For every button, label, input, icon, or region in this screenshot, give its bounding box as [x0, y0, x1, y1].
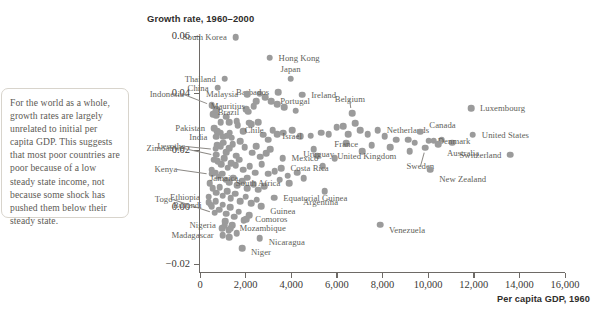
- data-point: [232, 191, 239, 198]
- point-label: Uruguay: [303, 149, 334, 159]
- data-point: [216, 184, 223, 191]
- data-point: [252, 169, 259, 176]
- point-label: Luxembourg: [480, 103, 525, 113]
- data-point: [227, 204, 234, 211]
- data-point: [220, 201, 227, 208]
- data-point: [242, 193, 249, 200]
- data-point: [266, 55, 273, 62]
- point-label: Israel: [282, 131, 302, 141]
- point-label: Togo: [155, 194, 173, 204]
- data-point: [233, 34, 240, 41]
- data-point: [405, 136, 412, 143]
- data-point: [301, 175, 308, 182]
- point-label: Zimbabwe: [146, 143, 184, 153]
- point-label: India: [189, 132, 207, 142]
- data-point: [340, 123, 347, 130]
- data-point: [271, 194, 278, 201]
- chart-title: Growth rate, 1960–2000: [147, 13, 254, 24]
- point-label: South Korea: [183, 32, 227, 42]
- data-point: [435, 141, 442, 148]
- x-tick: [200, 273, 201, 278]
- x-tick: [382, 273, 383, 278]
- data-point: [234, 122, 241, 129]
- data-point: [206, 193, 213, 200]
- data-point: [318, 130, 325, 137]
- point-label: Japan: [281, 64, 301, 74]
- point-label: Kenya: [154, 164, 177, 174]
- data-point: [286, 180, 293, 187]
- point-label: Venezuela: [389, 225, 425, 235]
- data-point: [236, 156, 243, 163]
- point-label: Costa Rica: [290, 163, 328, 173]
- point-label: United Kingdom: [337, 151, 396, 161]
- data-point: [243, 216, 250, 223]
- y-tick: [194, 264, 199, 265]
- point-label: Jamaica: [210, 173, 238, 183]
- point-label: New Zealand: [439, 174, 486, 184]
- data-point: [326, 131, 333, 138]
- data-point: [278, 165, 285, 172]
- data-point: [224, 188, 231, 195]
- data-point: [407, 148, 414, 155]
- data-point: [287, 75, 294, 82]
- x-tick: [473, 273, 474, 278]
- data-point: [417, 128, 424, 135]
- data-point: [213, 134, 220, 141]
- point-label: Niger: [251, 247, 271, 257]
- point-label: Canada: [429, 120, 455, 130]
- data-point: [241, 144, 248, 151]
- point-label: Nigeria: [190, 220, 216, 230]
- data-point: [275, 89, 282, 96]
- data-point: [239, 245, 246, 252]
- data-point: [267, 146, 274, 153]
- point-label: Switzerland: [459, 150, 501, 160]
- data-point: [285, 172, 292, 179]
- data-point: [292, 107, 299, 114]
- point-label: Mozambique: [240, 223, 286, 233]
- data-point: [258, 161, 265, 168]
- x-tick: [565, 273, 566, 278]
- point-label: Hong Kong: [279, 53, 320, 63]
- data-point: [268, 98, 275, 105]
- point-label: Ireland: [311, 90, 336, 100]
- scatter-plot-figure: For the world as a whole, growth rates a…: [0, 0, 616, 315]
- data-point: [251, 103, 258, 110]
- data-point: [349, 110, 356, 117]
- point-label: Denmark: [438, 136, 471, 146]
- point-label: Portugal: [280, 96, 310, 106]
- data-point: [387, 144, 394, 151]
- data-point: [246, 163, 253, 170]
- y-tick-label: −0.02: [148, 258, 190, 269]
- data-point: [211, 125, 218, 132]
- data-point: [357, 127, 364, 134]
- data-point: [253, 196, 260, 203]
- x-tick: [336, 273, 337, 278]
- data-point: [345, 131, 352, 138]
- data-point: [279, 155, 286, 162]
- data-point: [245, 108, 252, 115]
- point-label: Nicaragua: [269, 237, 305, 247]
- data-point: [393, 136, 400, 143]
- data-point: [244, 91, 251, 98]
- data-point: [364, 131, 371, 138]
- point-label: United States: [482, 130, 529, 140]
- point-label: Brazil: [218, 107, 240, 117]
- data-point: [229, 141, 236, 148]
- x-tick: [519, 273, 520, 278]
- data-point: [426, 138, 433, 145]
- data-point: [226, 234, 233, 241]
- point-label: France: [334, 139, 358, 149]
- data-point: [220, 232, 227, 239]
- data-point: [227, 225, 234, 232]
- data-point: [422, 144, 429, 151]
- data-point: [220, 139, 227, 146]
- point-label: South Africa: [236, 178, 281, 188]
- data-point: [211, 209, 218, 216]
- data-point: [352, 120, 359, 127]
- data-point: [235, 208, 242, 215]
- point-label: Malaysia: [206, 89, 238, 99]
- label-leader-line: [177, 169, 207, 174]
- data-point: [249, 149, 256, 156]
- data-point: [377, 221, 384, 228]
- data-point: [213, 189, 220, 196]
